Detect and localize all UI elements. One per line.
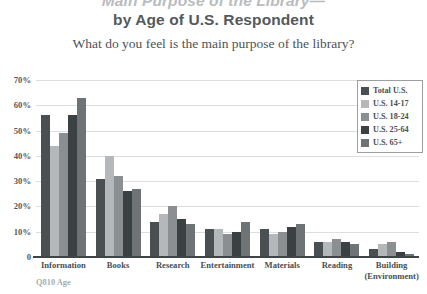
legend-label: U.S. 18-24 [373, 112, 409, 121]
y-axis-tick-10pct: 10% [0, 227, 31, 237]
bar[interactable] [323, 242, 332, 257]
bar[interactable] [232, 232, 241, 257]
x-axis-baseline [33, 256, 419, 258]
legend-swatch-icon [361, 87, 369, 95]
bar[interactable] [314, 242, 323, 257]
bar-group-research [145, 80, 200, 257]
legend-label: U.S. 65+ [373, 138, 402, 147]
bar[interactable] [205, 229, 214, 257]
bar[interactable] [114, 176, 123, 257]
bar[interactable] [186, 224, 195, 257]
bar[interactable] [41, 115, 50, 257]
bar[interactable] [96, 179, 105, 257]
chart-legend: Total U.S.U.S. 14-17U.S. 18-24U.S. 25-64… [357, 80, 423, 153]
bar[interactable] [59, 133, 68, 257]
bar-group-books [91, 80, 146, 257]
legend-item-u-s-18-24[interactable]: U.S. 18-24 [361, 110, 419, 123]
bar-group-entertainment [200, 80, 255, 257]
chart-card: Main Purpose of the Library— by Age of U… [0, 0, 427, 294]
bar[interactable] [269, 234, 278, 257]
y-axis-tick-0: 0 [0, 252, 31, 262]
bar[interactable] [287, 227, 296, 257]
bar[interactable] [278, 232, 287, 257]
legend-swatch-icon [361, 113, 369, 121]
bar[interactable] [387, 242, 396, 257]
chart-title-line-1: Main Purpose of the Library— [0, 0, 427, 10]
bar[interactable] [341, 242, 350, 257]
bar[interactable] [332, 239, 341, 257]
x-axis-label-line: Building [358, 260, 425, 271]
bar[interactable] [168, 206, 177, 257]
legend-swatch-icon [361, 126, 369, 134]
legend-item-u-s-25-64[interactable]: U.S. 25-64 [361, 123, 419, 136]
legend-item-u-s-65+[interactable]: U.S. 65+ [361, 136, 419, 149]
y-axis-tick-30pct: 30% [0, 176, 31, 186]
bar[interactable] [241, 222, 250, 257]
legend-label: U.S. 25-64 [373, 125, 409, 134]
y-axis-tick-20pct: 20% [0, 201, 31, 211]
bar[interactable] [150, 222, 159, 257]
legend-swatch-icon [361, 139, 369, 147]
bar-group-information [36, 80, 91, 257]
chart-footnote: Q810 Age [36, 278, 71, 287]
y-axis-tick-60pct: 60% [0, 100, 31, 110]
bar[interactable] [123, 191, 132, 257]
bar[interactable] [223, 234, 232, 257]
x-axis-label-line: (Environment) [358, 271, 425, 282]
chart-title-block: Main Purpose of the Library— by Age of U… [0, 0, 427, 30]
legend-item-total-u-s[interactable]: Total U.S. [361, 84, 419, 97]
bar[interactable] [159, 214, 168, 257]
chart-title-line-2: by Age of U.S. Respondent [0, 10, 427, 30]
bar[interactable] [214, 229, 223, 257]
legend-item-u-s-14-17[interactable]: U.S. 14-17 [361, 97, 419, 110]
bar[interactable] [296, 224, 305, 257]
chart-subtitle: What do you feel is the main purpose of … [0, 36, 427, 52]
y-axis-tick-40pct: 40% [0, 151, 31, 161]
bar[interactable] [68, 115, 77, 257]
bar[interactable] [260, 229, 269, 257]
y-axis-tick-50pct: 50% [0, 126, 31, 136]
legend-label: U.S. 14-17 [373, 99, 409, 108]
bar[interactable] [50, 146, 59, 257]
bar[interactable] [105, 156, 114, 257]
legend-swatch-icon [361, 100, 369, 108]
bar[interactable] [132, 189, 141, 257]
y-axis-tick-70pct: 70% [0, 75, 31, 85]
bar[interactable] [177, 219, 186, 257]
bar-group-materials [255, 80, 310, 257]
legend-label: Total U.S. [373, 86, 408, 95]
x-axis-label-building-environment: Building(Environment) [358, 260, 425, 281]
bar[interactable] [77, 98, 86, 257]
